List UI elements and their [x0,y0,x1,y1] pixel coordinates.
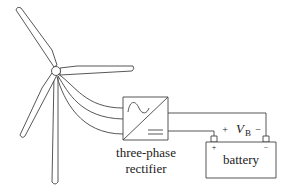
voltage-minus: − [255,124,261,135]
voltage-plus: + [222,124,228,135]
battery-terminal-negative [263,136,269,142]
turbine-hub [52,67,61,76]
battery-terminal-positive [211,136,217,142]
phase-wire-3 [57,77,123,134]
voltage-subscript: B [245,128,251,138]
battery-minus-mark: − [264,143,269,152]
rectifier-label-line2: rectifier [125,161,167,176]
turbine-blade-upper [16,7,57,67]
rectifier-label-line1: three-phase [116,145,176,160]
dc-wire-positive [168,131,214,136]
battery-plus-mark: + [212,143,217,152]
diagram-canvas: three-phase rectifier battery + − + V B … [0,0,286,195]
dc-wire-negative [168,113,266,136]
turbine-tower [52,76,58,184]
battery-label: battery [223,152,260,167]
turbine-blade-lower [20,73,57,137]
turbine-blade-right [60,66,134,75]
